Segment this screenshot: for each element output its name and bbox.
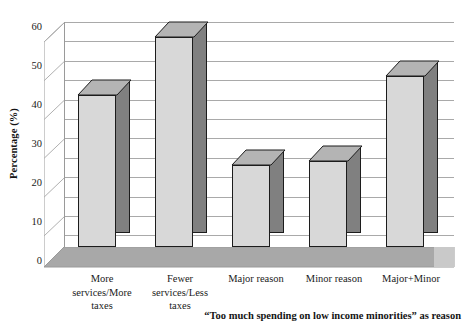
bar-top bbox=[78, 80, 131, 95]
bar-top bbox=[155, 22, 208, 37]
bar-major-plus-minor bbox=[386, 76, 424, 247]
bar-more-services-more-taxes bbox=[78, 95, 116, 247]
plot-area bbox=[44, 22, 454, 267]
x-label-major-plus-minor: Major+Minor bbox=[362, 272, 460, 286]
floor bbox=[44, 247, 454, 267]
bar-chart: Percentage (%) 60 50 40 30 20 10 0 bbox=[0, 0, 465, 324]
bar-face bbox=[232, 165, 270, 247]
bar-face bbox=[309, 161, 347, 247]
bar-side bbox=[193, 23, 207, 233]
bar-face bbox=[78, 95, 116, 247]
y-tick-50: 50 bbox=[20, 61, 42, 71]
y-axis-tick-labels: 60 50 40 30 20 10 0 bbox=[18, 0, 42, 324]
bar-side bbox=[116, 81, 130, 233]
bar-major-reason bbox=[232, 165, 270, 247]
gridline-65 bbox=[65, 22, 454, 23]
y-tick-20: 20 bbox=[20, 178, 42, 188]
gridline-60 bbox=[65, 41, 454, 42]
bar-top bbox=[309, 146, 362, 161]
bar-top bbox=[386, 61, 439, 76]
bar-side bbox=[424, 62, 438, 233]
bar-face bbox=[386, 76, 424, 247]
x-axis-title: “Too much spending on low income minorit… bbox=[0, 310, 461, 321]
x-label-line: Major+Minor bbox=[362, 272, 460, 286]
y-axis-title: Percentage (%) bbox=[8, 84, 19, 204]
y-tick-40: 40 bbox=[20, 100, 42, 110]
x-label-line: services/Less bbox=[132, 286, 228, 300]
bar-top bbox=[232, 150, 285, 165]
bar-fewer-services-less-taxes bbox=[155, 37, 193, 247]
left-side-wall bbox=[44, 22, 65, 267]
y-tick-0: 0 bbox=[20, 256, 42, 266]
y-tick-10: 10 bbox=[20, 217, 42, 227]
bar-face bbox=[155, 37, 193, 247]
y-tick-60: 60 bbox=[20, 22, 42, 32]
bar-minor-reason bbox=[309, 161, 347, 247]
y-tick-30: 30 bbox=[20, 139, 42, 149]
